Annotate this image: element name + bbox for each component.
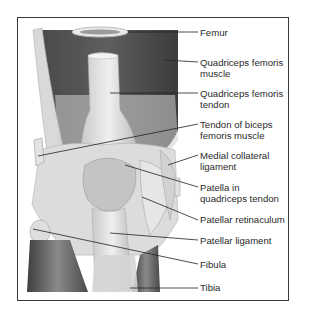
tibia-shape	[92, 255, 138, 292]
label-patella-in-quadriceps-tendon: Patella in quadriceps tendon	[200, 182, 279, 205]
label-tibia: Tibia	[200, 282, 220, 293]
label-medial-collateral-ligament: Medial collateral ligament	[200, 150, 269, 173]
label-patellar-retinaculum: Patellar retinaculum	[200, 214, 285, 225]
label-tendon-of-biceps-femoris-muscle: Tendon of biceps femoris muscle	[200, 119, 273, 142]
label-fibula: Fibula	[200, 259, 226, 270]
label-quadriceps-femoris-tendon: Quadriceps femoris tendon	[200, 88, 283, 111]
label-quadriceps-femoris-muscle: Quadriceps femoris muscle	[200, 57, 283, 80]
label-femur: Femur	[200, 27, 228, 38]
label-patellar-ligament: Patellar ligament	[200, 235, 271, 246]
biceps-femoris-tendon-shape	[34, 138, 44, 166]
